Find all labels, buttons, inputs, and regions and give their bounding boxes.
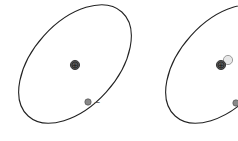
nucleus-left-icon: + — [70, 60, 79, 70]
nucleus-right-symbol: + — [218, 62, 224, 70]
orbit-left — [0, 0, 153, 141]
atom-left: + − — [0, 0, 153, 141]
nucleus-left-symbol: + — [72, 62, 78, 70]
electron-left-symbol: − — [94, 98, 101, 107]
atom-diagram: + − + — [0, 0, 238, 141]
electron-right-icon — [233, 100, 238, 106]
orbit-right — [144, 0, 238, 141]
nucleus-right-icon: + — [216, 60, 225, 70]
atom-right: + — [144, 0, 238, 141]
